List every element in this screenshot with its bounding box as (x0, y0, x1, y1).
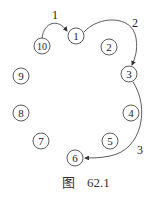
arrows (42, 20, 142, 158)
circular-arrangement-diagram: 123 12345678910 (0, 0, 153, 199)
node-7: 7 (33, 133, 49, 149)
node-1: 1 (68, 28, 84, 44)
node-6: 6 (67, 150, 83, 166)
arrow-label-3: 3 (137, 143, 143, 157)
node-4: 4 (123, 105, 139, 121)
node-9: 9 (13, 68, 29, 84)
svg-text:7: 7 (38, 135, 44, 147)
caption-prefix: 图 (62, 175, 75, 190)
node-5: 5 (102, 133, 118, 149)
svg-text:10: 10 (37, 41, 47, 52)
svg-text:2: 2 (106, 41, 112, 53)
node-2: 2 (101, 39, 117, 55)
arrow-label-2: 2 (132, 16, 138, 30)
arrow-labels: 123 (52, 8, 143, 157)
caption-number: 62.1 (87, 175, 110, 190)
nodes: 12345678910 (13, 28, 139, 166)
arrow-label-1: 1 (52, 8, 58, 22)
figure-caption: 图62.1 (62, 172, 110, 191)
svg-text:5: 5 (107, 135, 113, 147)
node-8: 8 (13, 105, 29, 121)
node-10: 10 (34, 38, 50, 54)
svg-text:1: 1 (73, 30, 79, 42)
svg-text:4: 4 (128, 107, 134, 119)
node-3: 3 (121, 66, 137, 82)
svg-text:9: 9 (18, 70, 24, 82)
svg-text:8: 8 (18, 107, 24, 119)
arrow-10-to-1 (42, 23, 67, 38)
svg-text:3: 3 (126, 68, 132, 80)
svg-text:6: 6 (72, 152, 78, 164)
